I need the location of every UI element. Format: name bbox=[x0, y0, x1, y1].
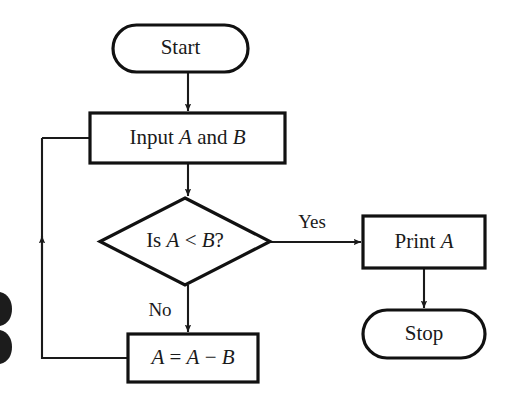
edge-label-yes: Yes bbox=[298, 211, 326, 232]
scan-artifact-glyph-upper bbox=[0, 292, 12, 326]
assign-label-var-a1: A bbox=[149, 345, 164, 369]
flowchart-canvas: Start Input A and B Is A < B? Print A bbox=[0, 0, 517, 415]
node-assign: A = A − B bbox=[128, 334, 258, 382]
assign-label-var-b: B bbox=[222, 345, 235, 369]
node-stop: Stop bbox=[363, 310, 485, 358]
input-label: Input A and B bbox=[129, 125, 245, 149]
scan-artifact-glyph-lower bbox=[0, 330, 12, 364]
stop-label: Stop bbox=[405, 321, 444, 345]
input-label-var-b: B bbox=[233, 125, 246, 149]
start-label: Start bbox=[161, 35, 201, 59]
assign-label: A = A − B bbox=[149, 345, 234, 369]
decision-label: Is A < B? bbox=[146, 228, 224, 252]
decision-label-operator: < bbox=[179, 228, 201, 252]
decision-label-suffix: ? bbox=[215, 228, 224, 252]
flowchart-diagram: Start Input A and B Is A < B? Print A bbox=[0, 0, 517, 415]
node-start: Start bbox=[113, 25, 248, 72]
input-label-var-a: A bbox=[177, 125, 192, 149]
page-edge-scan-artifacts bbox=[0, 292, 12, 364]
input-label-prefix: Input bbox=[129, 125, 179, 149]
print-label-prefix: Print bbox=[395, 229, 441, 253]
node-input: Input A and B bbox=[90, 113, 285, 163]
assign-label-equals: = bbox=[164, 345, 186, 369]
assign-label-minus: − bbox=[199, 345, 221, 369]
input-label-middle: and bbox=[192, 125, 233, 149]
edge-label-no: No bbox=[148, 299, 171, 320]
decision-label-prefix: Is bbox=[146, 228, 166, 252]
decision-label-var-a: A bbox=[165, 228, 180, 252]
node-print: Print A bbox=[363, 216, 485, 268]
decision-label-var-b: B bbox=[202, 228, 215, 252]
node-decision: Is A < B? bbox=[100, 198, 270, 285]
print-label: Print A bbox=[395, 229, 454, 253]
assign-label-var-a2: A bbox=[185, 345, 200, 369]
print-label-var-a: A bbox=[439, 229, 454, 253]
